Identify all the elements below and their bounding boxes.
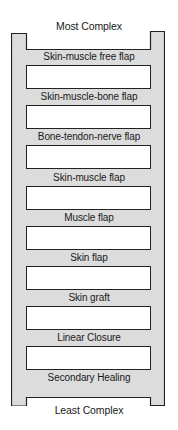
rung-label-skin-muscle-free-flap: Skin-muscle free flap (0, 51, 178, 63)
rung-gap-8 (26, 346, 151, 370)
rung-gap-5 (26, 226, 151, 250)
rung-label-bone-tendon-nerve-flap: Bone-tendon-nerve flap (0, 131, 178, 143)
rung-gap-2 (26, 105, 151, 129)
rung-label-skin-flap: Skin flap (0, 252, 178, 264)
rung-label-secondary-healing: Secondary Healing (0, 372, 178, 384)
rung-gap-4 (26, 186, 151, 210)
rung-label-skin-muscle-bone-flap: Skin-muscle-bone flap (0, 91, 178, 103)
rung-gap-6 (26, 266, 151, 290)
rung-gap-1 (26, 65, 151, 89)
rung-label-skin-graft: Skin graft (0, 292, 178, 304)
rung-gap-7 (26, 306, 151, 330)
bottom-label-least-complex: Least Complex (0, 404, 178, 416)
rung-label-skin-muscle-flap: Skin-muscle flap (0, 172, 178, 184)
rung-label-muscle-flap: Muscle flap (0, 212, 178, 224)
rung-gap-3 (26, 145, 151, 169)
rung-label-linear-closure: Linear Closure (0, 332, 178, 344)
